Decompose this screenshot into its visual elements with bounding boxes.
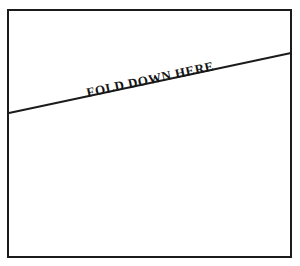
- document-sheet: FOLD DOWN HERE: [0, 0, 300, 266]
- fold-line-overlay: [0, 0, 300, 266]
